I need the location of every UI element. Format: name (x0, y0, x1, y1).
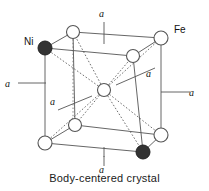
edge-front-top (45, 48, 133, 56)
diagonal-to-back-top-right (104, 38, 161, 90)
label-a-right: a (189, 87, 194, 98)
atom-front-top-left-ni[interactable] (38, 41, 52, 55)
bcc-unit-cell-svg: Ni Fe a a a a a a (0, 0, 209, 191)
diagonal-to-back-bottom-right (104, 90, 161, 135)
label-a-inner-right: a (146, 68, 151, 79)
bcc-crystal-figure: Ni Fe a a a a a a Body-centered crystal (0, 0, 209, 191)
atom-back-top-left[interactable] (67, 26, 80, 39)
edge-back-top (73, 32, 161, 38)
atom-front-bottom-right-ni[interactable] (136, 145, 150, 159)
label-ni: Ni (24, 36, 33, 47)
atom-back-bottom-right[interactable] (154, 128, 168, 142)
edge-back-bottom (75, 125, 161, 135)
atom-front-top-right[interactable] (127, 50, 140, 63)
figure-caption: Body-centered crystal (0, 172, 209, 184)
label-a-left: a (5, 78, 10, 89)
edge-front-bottom (45, 143, 143, 152)
label-fe: Fe (174, 24, 186, 35)
label-a-inner-left: a (50, 96, 55, 107)
edge-back-left (73, 32, 75, 125)
atom-back-bottom-left[interactable] (69, 119, 82, 132)
atom-back-top-right-fe[interactable] (154, 31, 168, 45)
label-a-top: a (99, 8, 104, 19)
atom-front-bottom-left[interactable] (38, 136, 52, 150)
edge-front-right (133, 56, 143, 152)
diagonal-to-back-top-left (73, 32, 104, 90)
atom-body-center[interactable] (98, 84, 111, 97)
